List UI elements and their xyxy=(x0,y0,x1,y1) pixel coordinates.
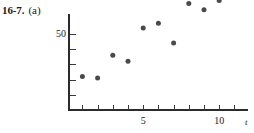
data-point xyxy=(186,1,191,6)
data-points xyxy=(80,0,222,81)
y-axis-ticks xyxy=(70,35,76,96)
data-point xyxy=(171,41,176,46)
data-point xyxy=(110,53,115,58)
data-point xyxy=(217,0,222,3)
data-point xyxy=(202,7,207,12)
data-point xyxy=(156,21,161,26)
scatter-plot: 50 510 t xyxy=(0,0,254,133)
x-axis-title: t xyxy=(245,117,248,127)
data-point xyxy=(126,59,131,64)
axes-group xyxy=(68,14,248,111)
x-tick-label: 5 xyxy=(129,115,157,126)
data-point xyxy=(141,25,146,30)
data-point xyxy=(80,74,85,79)
x-axis-ticks xyxy=(83,105,235,110)
x-tick-label: 10 xyxy=(205,115,233,126)
y-tick-label: 50 xyxy=(46,28,66,39)
figure-container: 16-7.(a) 50 510 t xyxy=(0,0,254,133)
data-point xyxy=(95,76,100,81)
